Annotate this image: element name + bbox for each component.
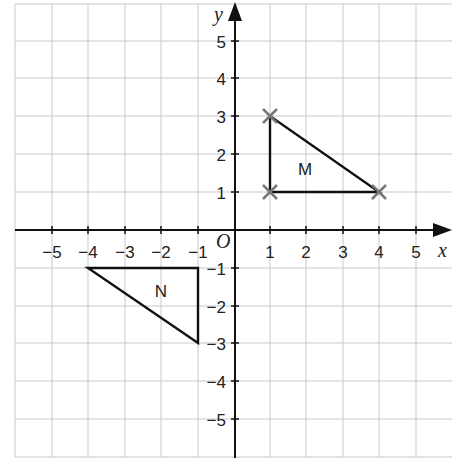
y-tick-label: −5 — [207, 411, 226, 430]
x-tick-label: −2 — [151, 243, 170, 262]
origin-label: O — [216, 230, 230, 252]
y-tick-label: 1 — [217, 184, 226, 203]
y-tick-label: −3 — [207, 335, 226, 354]
y-axis-label: y — [212, 3, 223, 26]
y-tick-label: 4 — [217, 70, 226, 89]
triangle-n-label: N — [155, 282, 167, 301]
y-tick-label: −4 — [207, 373, 226, 392]
y-tick-label: 3 — [217, 108, 226, 127]
x-axis-arrow-icon — [433, 223, 452, 237]
y-tick-label: −1 — [207, 260, 226, 279]
coordinate-grid: −5 −4 −3 −2 −1 1 2 3 4 5 5 4 3 2 1 −1 −2… — [0, 0, 452, 458]
x-tick-label: −4 — [78, 243, 97, 262]
y-tick-label: 2 — [217, 146, 226, 165]
x-tick-label: −3 — [115, 243, 134, 262]
x-tick-label: −1 — [188, 243, 207, 262]
y-tick-label: 5 — [217, 33, 226, 52]
x-tick-label: 4 — [374, 243, 383, 262]
y-axis-arrow-icon — [228, 2, 242, 21]
x-tick-label: 3 — [338, 243, 347, 262]
triangle-m-label: M — [298, 160, 312, 179]
x-tick-label: 5 — [411, 243, 420, 262]
y-tick-label: −2 — [207, 298, 226, 317]
x-axis-label: x — [437, 239, 447, 261]
x-tick-label: 1 — [265, 243, 274, 262]
x-tick-label: −5 — [42, 243, 61, 262]
x-tick-label: 2 — [301, 243, 310, 262]
